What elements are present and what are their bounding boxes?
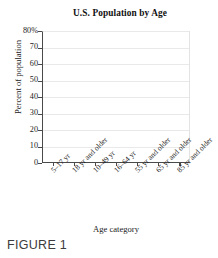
gridline [43,64,189,65]
y-tick-label: 50 [0,75,38,84]
y-tick-mark [38,163,42,164]
gridline [43,147,189,148]
y-tick-label: 70 [0,42,38,51]
gridline [43,81,189,82]
gridline [43,48,189,49]
y-tick-label: 80% [0,26,38,35]
y-tick-label: 10 [0,141,38,150]
gridline [43,97,189,98]
chart-title: U.S. Population by Age [30,8,210,18]
y-tick-label: 30 [0,108,38,117]
gridline [43,130,189,131]
y-tick-label: 20 [0,125,38,134]
gridline [43,31,189,32]
y-tick-label: 0 [0,158,38,167]
x-axis-title: Age category [42,224,190,234]
figure-container: U.S. Population by Age Percent of popula… [0,0,218,258]
figure-caption: FIGURE 1 [7,238,67,252]
y-tick-label: 60 [0,59,38,68]
y-tick-label: 40 [0,92,38,101]
gridline [43,114,189,115]
